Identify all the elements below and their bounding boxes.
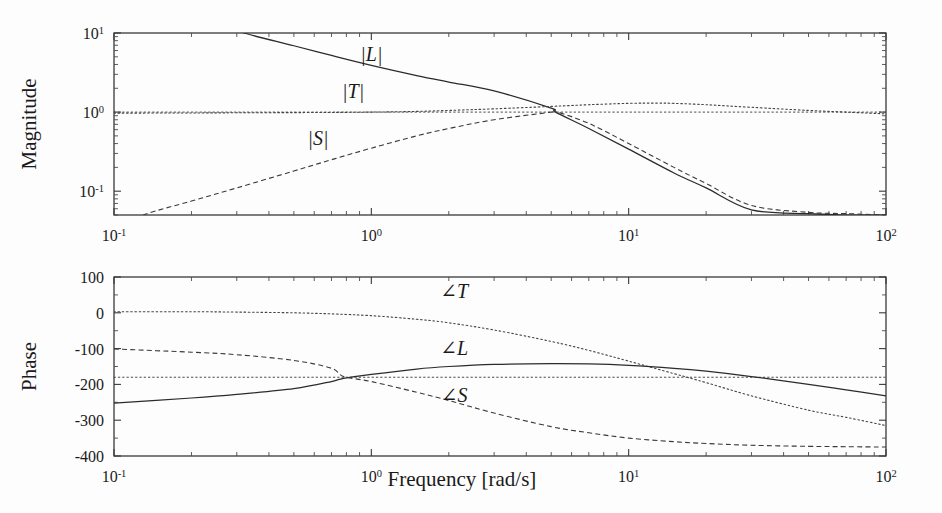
phase-axes-frame	[114, 277, 886, 456]
magnitude-axis-label: Magnitude	[17, 79, 41, 170]
phase-yticklabel: -400	[75, 448, 104, 465]
magnitude-curve-label-l: |L|	[360, 43, 382, 66]
bode-plot-figure: 10-110-110010010110110210210110010-11000…	[0, 0, 942, 513]
phase-curve-label-s: ∠S	[441, 384, 468, 406]
magnitude-curve-label-t: |T|	[342, 80, 364, 103]
phase-yticklabel: -100	[75, 341, 104, 358]
phase-xticklabel: 101	[618, 468, 639, 486]
phase-axis-label: Phase	[17, 342, 41, 391]
magnitude-curve-label-s: |S|	[307, 127, 328, 150]
magnitude-xticklabel: 10-1	[102, 227, 127, 245]
curve-phase-t	[114, 312, 886, 426]
curve-magnitude-l	[114, 0, 886, 215]
phase-curve-label-l: ∠L	[440, 337, 468, 359]
plot-canvas: 10-110-110010010110110210210110010-11000…	[0, 0, 942, 513]
magnitude-yticklabel: 10-1	[79, 183, 104, 201]
magnitude-axes-frame	[114, 33, 886, 215]
magnitude-yticklabel: 101	[83, 25, 104, 43]
phase-xticklabel: 10-1	[102, 468, 127, 486]
phase-yticklabel: -300	[75, 412, 104, 429]
phase-curve-label-t: ∠T	[440, 280, 470, 302]
magnitude-xticklabel: 101	[618, 227, 639, 245]
phase-yticklabel: 0	[96, 305, 104, 322]
phase-yticklabel: -200	[75, 376, 104, 393]
magnitude-yticklabel: 100	[83, 104, 104, 122]
phase-xticklabel: 100	[361, 468, 382, 486]
magnitude-xticklabel: 100	[361, 227, 382, 245]
frequency-axis-label: Frequency [rad/s]	[388, 467, 537, 491]
phase-xticklabel: 102	[875, 468, 896, 486]
curve-phase-l	[114, 364, 886, 403]
phase-yticklabel: 100	[80, 269, 104, 286]
magnitude-xticklabel: 102	[875, 227, 896, 245]
